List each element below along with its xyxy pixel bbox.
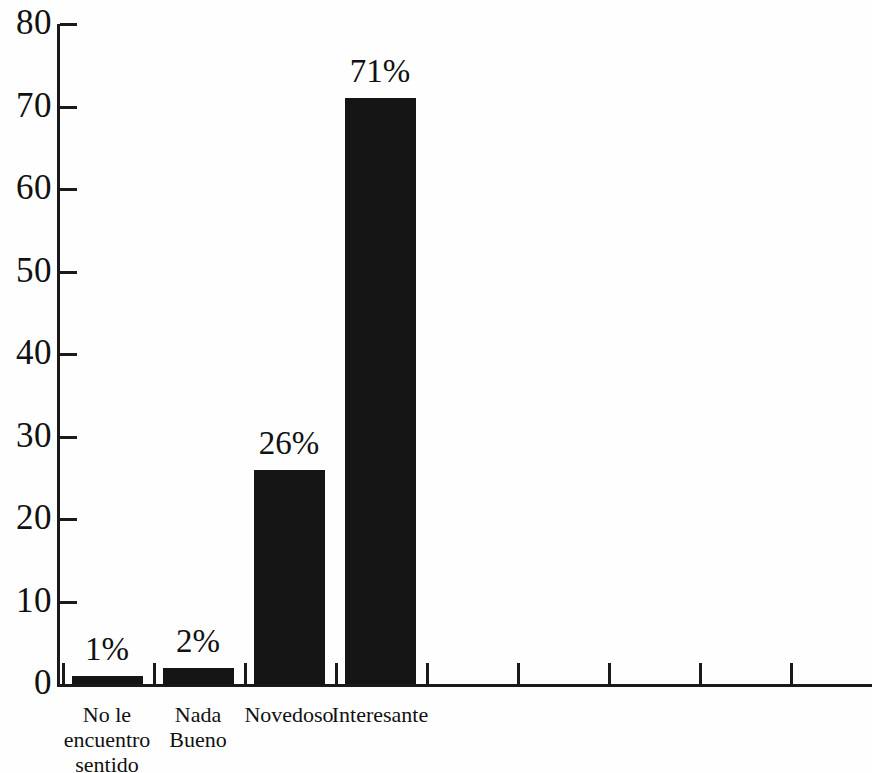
y-axis-tick	[60, 436, 77, 439]
y-axis-tick-label-text: 60	[0, 170, 52, 205]
y-axis-tick-label-text: 10	[0, 583, 52, 618]
x-axis-tick	[244, 663, 247, 684]
x-axis-tick	[517, 663, 520, 684]
y-axis-tick-label-text: 80	[0, 5, 52, 40]
y-axis-tick-label: 40	[0, 335, 52, 370]
x-axis-tick	[335, 663, 338, 684]
y-axis-tick-label-text: 40	[0, 335, 52, 370]
bar-value-label: 71%	[310, 55, 450, 88]
bar-chart: 01020304050607080 1%2%26%71% No le encue…	[0, 0, 872, 773]
bar	[72, 676, 143, 684]
y-axis-tick-label: 70	[0, 88, 52, 123]
bar	[254, 470, 325, 685]
y-axis-tick-label: 0	[0, 665, 52, 700]
bar	[345, 98, 416, 684]
y-axis-tick-label: 10	[0, 583, 52, 618]
y-axis-tick	[60, 601, 77, 604]
y-axis-tick-label-text: 20	[0, 500, 52, 535]
bar	[163, 668, 234, 685]
y-axis-tick	[60, 271, 77, 274]
bar-value-label: 2%	[128, 625, 268, 658]
x-axis-tick	[790, 663, 793, 684]
y-axis-tick-label: 60	[0, 170, 52, 205]
y-axis-tick	[60, 23, 77, 26]
x-axis-tick	[426, 663, 429, 684]
x-axis-category-label: Interesante	[290, 702, 470, 727]
x-axis-tick	[608, 663, 611, 684]
y-axis-tick	[60, 188, 77, 191]
bar-value-label: 26%	[219, 427, 359, 460]
y-axis-tick-label: 30	[0, 418, 52, 453]
y-axis-tick-label-text: 30	[0, 418, 52, 453]
x-axis-tick	[62, 663, 65, 684]
x-axis-tick	[699, 663, 702, 684]
y-axis-tick	[60, 106, 77, 109]
y-axis-tick-label-text: 50	[0, 253, 52, 288]
y-axis-tick	[60, 353, 77, 356]
y-axis-tick	[60, 518, 77, 521]
y-axis-tick-label: 50	[0, 253, 52, 288]
y-axis-tick-label: 80	[0, 5, 52, 40]
x-axis-tick	[153, 663, 156, 684]
y-axis-tick-label: 20	[0, 500, 52, 535]
y-axis-tick-label-text: 0	[0, 665, 52, 700]
y-axis-tick-label-text: 70	[0, 88, 52, 123]
